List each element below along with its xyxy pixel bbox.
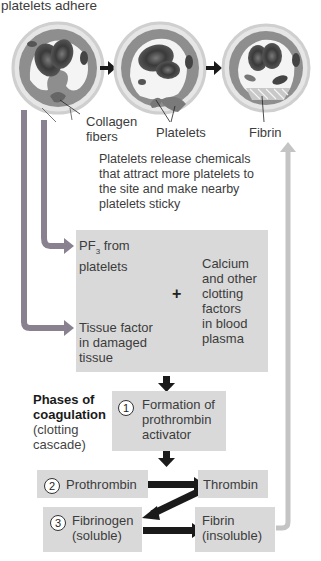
feedback-arrow: [276, 152, 288, 528]
phases-title: Phases of coagulation (clotting cascade): [33, 392, 106, 452]
calcium-label: Calcium and other clotting factors in bl…: [202, 256, 257, 346]
pf3-label: PF3 from platelets: [79, 238, 130, 274]
step1-number: 1: [118, 398, 138, 416]
fibrin-insoluble-label: Fibrin (insoluble): [202, 513, 262, 543]
arrow-diagonal-icon: [142, 506, 160, 520]
arrow-down-icon: [158, 458, 175, 467]
arrow-to-pf3: [44, 120, 66, 246]
release-note: Platelets release chemicals that attract…: [99, 152, 254, 212]
prothrombin-label: Prothrombin: [66, 477, 137, 492]
fibrinogen-label: Fibrinogen (soluble): [72, 513, 133, 543]
step2-number: 2: [44, 476, 64, 494]
thrombin-label: Thrombin: [203, 477, 258, 492]
plus-sign: +: [172, 285, 181, 303]
step3-number: 3: [50, 513, 70, 531]
tissue-factor-label: Tissue factor in damaged tissue: [79, 320, 153, 365]
step1-label: Formation of prothrombin activator: [142, 397, 215, 442]
